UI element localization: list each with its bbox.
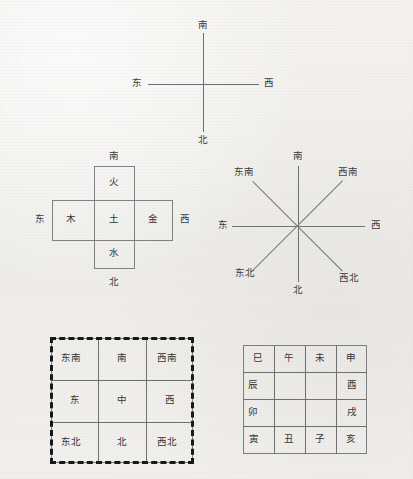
branches-cell-0-2: 未 bbox=[315, 354, 325, 364]
branches-row-divider-2 bbox=[243, 399, 367, 400]
figure-branches-grid: 巳 午 未 申 辰 酉 卯 戌 寅 丑 子 亥 bbox=[243, 345, 367, 454]
star-label-northeast: 东北 bbox=[235, 269, 256, 279]
figure-eight-direction-star: 南 北 东 西 东南 西南 东北 西北 bbox=[0, 0, 413, 310]
nine-palace-cell-2-0: 东北 bbox=[61, 438, 81, 448]
nine-palace-cell-1-2: 西 bbox=[165, 396, 175, 406]
branches-cell-1-0: 辰 bbox=[248, 381, 258, 391]
star-label-west: 西 bbox=[371, 221, 381, 231]
nine-palace-cell-2-1: 北 bbox=[117, 438, 127, 448]
nine-palace-cell-0-0: 东南 bbox=[61, 354, 81, 364]
nine-palace-cell-0-2: 西南 bbox=[157, 354, 177, 364]
nine-palace-cell-1-0: 东 bbox=[70, 396, 80, 406]
branches-cell-3-2: 子 bbox=[315, 435, 325, 445]
branches-cell-1-3: 酉 bbox=[347, 381, 357, 391]
branches-cell-0-0: 巳 bbox=[253, 354, 263, 364]
star-label-east: 东 bbox=[218, 221, 228, 231]
branches-cell-2-3: 戌 bbox=[347, 408, 357, 418]
branches-cell-2-0: 卯 bbox=[248, 408, 258, 418]
nine-palace-cell-2-2: 西北 bbox=[157, 438, 177, 448]
branches-cell-0-3: 申 bbox=[346, 354, 356, 364]
branches-cell-0-1: 午 bbox=[284, 354, 294, 364]
figure-sheet: 南 东 西 北 火 木 土 金 水 南 东 西 北 南 北 东 西 东南 西南 … bbox=[0, 0, 413, 479]
star-label-southwest: 西南 bbox=[338, 168, 359, 178]
nine-palace-cell-0-1: 南 bbox=[117, 354, 127, 364]
star-label-south: 南 bbox=[293, 152, 303, 162]
branches-cell-3-0: 寅 bbox=[249, 435, 259, 445]
star-label-north: 北 bbox=[293, 286, 303, 296]
branches-cell-3-1: 丑 bbox=[284, 435, 294, 445]
branches-row-divider-1 bbox=[243, 372, 367, 373]
branches-row-divider-3 bbox=[243, 426, 367, 427]
figure-nine-palace-grid: 东南 南 西南 东 中 西 东北 北 西北 bbox=[51, 338, 193, 463]
nine-palace-cell-1-1: 中 bbox=[117, 396, 127, 406]
star-label-northwest: 西北 bbox=[339, 274, 360, 284]
branches-cell-3-3: 亥 bbox=[346, 435, 356, 445]
star-label-southeast: 东南 bbox=[234, 168, 255, 178]
